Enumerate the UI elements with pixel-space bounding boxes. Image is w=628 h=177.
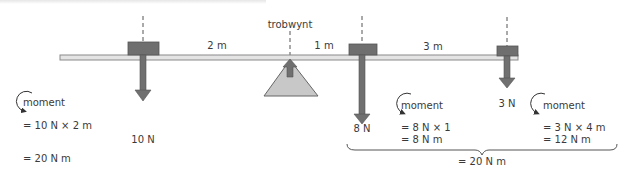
distance-label-right: 3 m xyxy=(423,41,442,52)
pivot-label: trobwynt xyxy=(268,19,313,30)
weight-right xyxy=(497,46,518,56)
moments-diagram: trobwynt 2 m 1 m 3 m 10 N 8 N 3 N moment… xyxy=(0,0,628,177)
force-arrow-left xyxy=(135,55,151,101)
moment-calc-right-line1: = 3 N × 4 m xyxy=(543,122,606,133)
moment-calc-middle-line2: = 8 N m xyxy=(401,134,443,145)
moment-calc-right-line2: = 12 N m xyxy=(543,134,591,145)
moment-word-left: moment xyxy=(23,97,65,108)
moment-word-middle: moment xyxy=(401,100,443,111)
force-arrow-middle xyxy=(354,55,370,124)
weight-middle xyxy=(349,44,377,55)
beam xyxy=(60,55,518,60)
moment-word-right: moment xyxy=(543,100,585,111)
weight-left xyxy=(128,42,159,55)
moment-calc-middle-line1: = 8 N × 1 xyxy=(401,122,451,133)
grouping-brace xyxy=(347,144,617,155)
force-arrow-right xyxy=(499,56,515,88)
force-label-middle: 8 N xyxy=(353,123,370,134)
force-label-left: 10 N xyxy=(131,134,154,145)
moment-calc-left-line2: = 20 N m xyxy=(23,153,71,164)
distance-label-middle: 1 m xyxy=(314,40,333,51)
moment-calc-left-line1: = 10 N × 2 m xyxy=(23,120,92,131)
force-label-right: 3 N xyxy=(498,98,515,109)
distance-label-left: 2 m xyxy=(207,40,226,51)
total-moment-right: = 20 N m xyxy=(458,156,506,167)
